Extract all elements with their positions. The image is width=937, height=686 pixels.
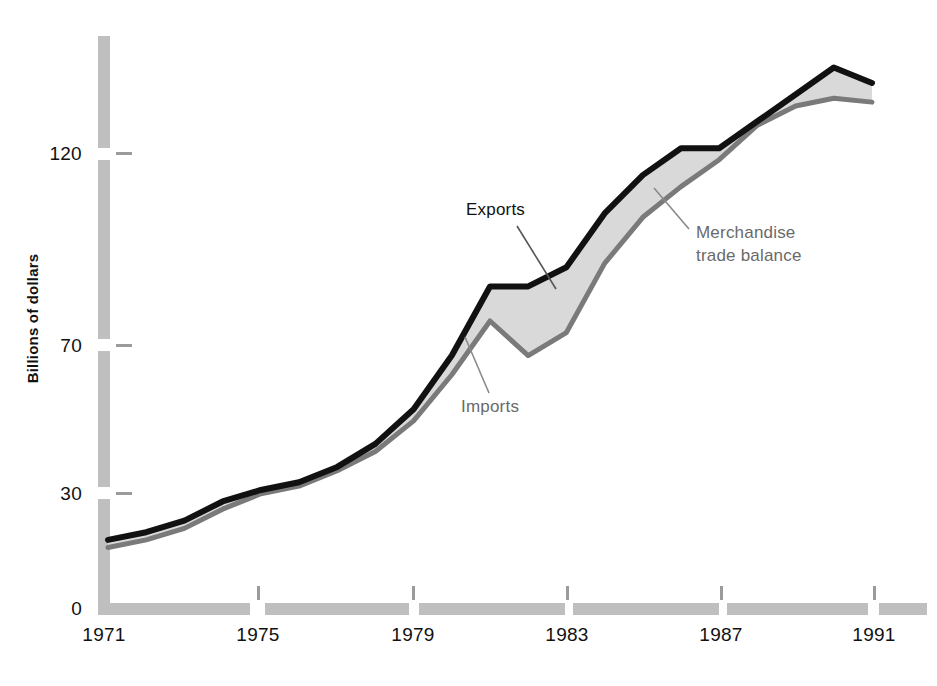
y-tick-label-0: 0 <box>22 598 82 620</box>
y-axis-title: Billions of dollars <box>24 209 41 429</box>
chart-container: Billions of dollars 120 70 30 0 1971 197… <box>0 0 937 686</box>
trade-balance-band <box>108 68 872 548</box>
imports-line <box>108 98 872 547</box>
chart-plot-area <box>0 0 937 686</box>
x-tick-label-1991: 1991 <box>829 624 919 646</box>
y-tick-label-30: 30 <box>22 483 82 505</box>
x-tick-label-1975: 1975 <box>213 624 303 646</box>
exports-label: Exports <box>466 200 525 220</box>
x-tick-label-1983: 1983 <box>522 624 612 646</box>
x-tick-marks <box>257 586 876 600</box>
imports-label: Imports <box>461 396 519 418</box>
y-tick-label-120: 120 <box>22 143 82 165</box>
x-tick-label-1971: 1971 <box>59 624 149 646</box>
y-axis-bar <box>98 36 110 615</box>
y-tick-marks <box>116 152 132 495</box>
balance-label-line-1: Merchandise <box>696 222 796 244</box>
x-tick-label-1979: 1979 <box>368 624 458 646</box>
x-axis-bar <box>98 603 927 615</box>
y-tick-label-70: 70 <box>22 335 82 357</box>
imports-leader-line <box>465 337 489 393</box>
balance-label-line-2: trade balance <box>696 245 802 267</box>
x-tick-label-1987: 1987 <box>676 624 766 646</box>
